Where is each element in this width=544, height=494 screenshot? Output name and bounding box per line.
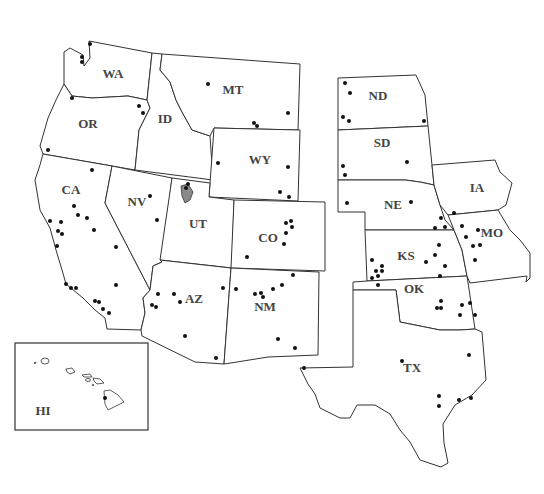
state-label-ks: KS (397, 248, 414, 263)
location-dot (72, 204, 76, 208)
location-dot (48, 219, 52, 223)
location-dot (88, 42, 92, 46)
location-dot (290, 225, 294, 229)
location-dot (276, 337, 280, 341)
location-dot (443, 264, 447, 268)
location-dot (464, 235, 468, 239)
state-label-mt: MT (223, 82, 244, 97)
location-dot (59, 220, 63, 224)
location-dot (370, 258, 374, 262)
location-dot (460, 303, 464, 307)
location-dot (184, 186, 188, 190)
state-label-wy: WY (249, 152, 272, 167)
location-dot (156, 292, 160, 296)
location-dot (443, 225, 447, 229)
location-dot (234, 287, 238, 291)
location-dot (255, 124, 259, 128)
location-dot (46, 148, 50, 152)
location-dot (150, 303, 154, 307)
state-label-nd: ND (369, 88, 388, 103)
state-label-co: CO (258, 230, 278, 245)
location-dot (473, 258, 477, 262)
location-dot (103, 396, 107, 400)
location-dot (469, 396, 473, 400)
location-dot (114, 245, 118, 249)
location-dot (69, 286, 73, 290)
location-dot (107, 311, 111, 315)
location-dot (438, 274, 442, 278)
state-co (231, 200, 325, 271)
location-dot (286, 165, 290, 169)
location-dot (424, 260, 428, 264)
location-dot (437, 404, 441, 408)
state-label-sd: SD (374, 135, 391, 150)
location-dot (216, 161, 220, 165)
location-dot (186, 182, 190, 186)
location-dot (467, 353, 471, 357)
location-dot (457, 398, 461, 402)
state-label-hi: HI (35, 403, 50, 418)
state-label-wa: WA (103, 66, 125, 81)
location-dot (286, 111, 290, 115)
location-dot (452, 211, 456, 215)
location-dot (92, 228, 96, 232)
state-nm (224, 268, 319, 364)
location-dot (341, 115, 345, 119)
state-label-id: ID (158, 111, 172, 126)
state-label-nm: NM (254, 299, 276, 314)
location-dot (183, 334, 187, 338)
location-dot (370, 276, 374, 280)
location-dot (245, 255, 249, 259)
location-dot (376, 283, 380, 287)
location-dot (56, 229, 60, 233)
state-label-ut: UT (189, 216, 207, 231)
location-dot (97, 300, 101, 304)
us-west-map: WAORIDMTWYCANVUTCOAZNMNDSDNEIAKSMOOKTXHI (0, 0, 544, 494)
location-dot (376, 274, 380, 278)
location-dot (80, 60, 84, 64)
location-dot (400, 359, 404, 363)
location-dot (343, 173, 347, 177)
location-dot (76, 213, 80, 217)
location-dot (476, 228, 480, 232)
location-dot (172, 292, 176, 296)
location-dot (341, 164, 345, 168)
location-dot (460, 224, 464, 228)
location-dot (289, 219, 293, 223)
location-dot (178, 300, 182, 304)
location-dot (253, 292, 257, 296)
location-dot (380, 264, 384, 268)
location-dot (214, 356, 218, 360)
location-dot (458, 313, 462, 317)
location-dot (439, 216, 443, 220)
location-dot (284, 221, 288, 225)
location-dot (433, 253, 437, 257)
state-az (141, 260, 231, 364)
location-dot (206, 82, 210, 86)
location-dot (93, 299, 97, 303)
location-dot (85, 216, 89, 220)
location-dot (148, 194, 152, 198)
location-dot (343, 81, 347, 85)
location-dot (287, 195, 291, 199)
location-dot (271, 287, 275, 291)
location-dot (280, 283, 284, 287)
state-label-ne: NE (384, 197, 402, 212)
location-dot (90, 168, 94, 172)
location-dot (60, 232, 64, 236)
location-dot (282, 242, 286, 246)
state-label-mo: MO (481, 225, 503, 240)
location-dot (261, 295, 265, 299)
location-dot (252, 121, 256, 125)
location-dot (278, 190, 282, 194)
location-dot (439, 306, 443, 310)
location-dot (154, 305, 158, 309)
location-dot (70, 96, 74, 100)
location-dot (155, 218, 159, 222)
location-dot (291, 273, 295, 277)
state-label-ca: CA (62, 182, 81, 197)
location-dot (471, 244, 475, 248)
location-dot (114, 283, 118, 287)
location-dot (422, 119, 426, 123)
state-label-az: AZ (185, 291, 203, 306)
